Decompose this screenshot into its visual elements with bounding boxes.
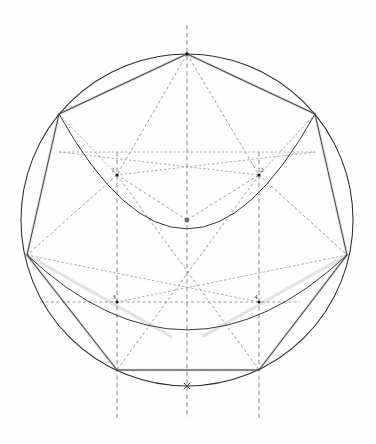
grain-top-right <box>187 54 315 114</box>
grain-lower-left-flank <box>27 255 117 370</box>
center-dot <box>185 218 189 222</box>
point-label-4: 4 <box>254 293 257 300</box>
apex-to-point-1 <box>117 54 187 175</box>
node-markers <box>115 52 260 389</box>
point-dot-4 <box>257 300 260 303</box>
point-1-to-left-vertex <box>27 175 117 255</box>
geometry-canvas: 1 2 3 4 <box>0 0 376 444</box>
point-dot-1 <box>115 173 118 176</box>
grain-top-left <box>59 54 187 114</box>
right-vertex-to-point-3 <box>117 255 347 302</box>
grain-lower-left-chord <box>27 255 172 337</box>
figure-root: 1 2 3 4 <box>0 0 376 444</box>
center-to-point-1 <box>117 175 187 220</box>
point-label-1: 1 <box>111 166 114 173</box>
upper-left-down-diagonal <box>59 114 117 175</box>
vertex-dot-top <box>185 52 188 55</box>
upper-left-to-point-2 <box>59 152 259 175</box>
upper-right-down-diagonal <box>259 114 315 175</box>
grain-lower-right-flank <box>259 255 347 370</box>
grain-lower-right-chord <box>202 255 347 337</box>
point-dot-2 <box>257 173 260 176</box>
grain-upper-left-flank <box>27 114 59 255</box>
point-dot-3 <box>115 300 118 303</box>
point-label-2: 2 <box>260 166 263 173</box>
point-labels: 1 2 3 4 <box>111 166 263 300</box>
point-label-3: 3 <box>112 293 115 300</box>
left-vertex-to-point-4 <box>27 255 259 302</box>
point-2-to-lower-left <box>117 175 259 370</box>
grain-upper-right-flank <box>315 114 347 255</box>
upper-right-to-point-1 <box>117 152 315 175</box>
center-to-point-2 <box>187 175 259 220</box>
point-2-to-right-vertex <box>259 175 347 255</box>
